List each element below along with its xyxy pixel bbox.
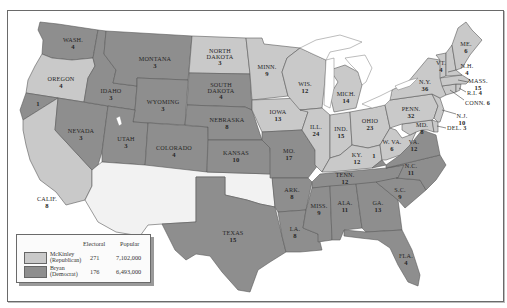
legend-swatch-democrat	[24, 266, 47, 278]
label-nevada: NEVADA3	[68, 128, 95, 141]
legend-electoral-mckinley: 271	[90, 254, 99, 261]
label-wyoming: WYOMING3	[147, 99, 180, 112]
label-ny: N.Y.36	[419, 79, 431, 92]
label-mich: MICH.14	[337, 91, 356, 104]
label-idaho: IDAHO3	[101, 88, 122, 101]
label-ohio: OHIO23	[362, 118, 378, 131]
label-ky-split: 1	[372, 153, 376, 160]
legend-popular-bryan: 6,493,000	[116, 268, 141, 275]
leader-del	[437, 126, 446, 128]
label-vt: VT.4	[436, 60, 446, 73]
label-oregon: OREGON4	[48, 76, 75, 89]
label-tenn: TENN.12	[335, 172, 354, 185]
legend-label-bryan: Bryan(Democrat)	[50, 265, 78, 278]
label-penn: PENN.32	[402, 106, 421, 119]
label-la: LA.8	[290, 226, 300, 239]
label-ark: ARK.8	[284, 187, 299, 200]
label-ill: ILL.24	[310, 124, 322, 137]
legend-electoral-bryan: 176	[90, 268, 99, 275]
legend-popular-mckinley: 7,102,000	[116, 254, 141, 261]
state-mich	[330, 65, 362, 112]
label-mo: MO.17	[283, 148, 295, 161]
legend-label-mckinley: McKinley(Republican)	[50, 251, 81, 264]
legend-header-electoral: Electoral	[83, 240, 105, 247]
leader-nj	[442, 110, 456, 114]
legend-swatch-republican	[24, 252, 47, 264]
label-ind: IND.15	[334, 126, 347, 139]
label-w-va: W. VA.6	[382, 139, 401, 152]
legend-header-popular: Popular	[120, 240, 139, 247]
label-montana: MONTANA3	[139, 56, 172, 69]
label-iowa: IOWA13	[270, 109, 287, 122]
label-conn: CONN. 6	[465, 100, 490, 107]
label-nh: N.H.4	[461, 63, 474, 76]
label-nebraska: NEBRASKA8	[210, 117, 245, 130]
legend: Electoral Popular McKinley(Republican) 2…	[16, 234, 151, 283]
state-ri	[456, 84, 461, 92]
label-mass: MASS.15	[468, 78, 487, 91]
label-sc: S.C.9	[394, 187, 405, 200]
label-texas: TEXAS15	[223, 230, 244, 243]
label-minn: MINN.9	[257, 64, 276, 77]
label-fla: FLA.4	[399, 253, 413, 266]
label-north-dakota: NORTHDAKOTA3	[207, 48, 234, 67]
label-me: ME.6	[460, 41, 471, 54]
label-utah: UTAH3	[117, 136, 135, 149]
label-miss: MISS.9	[311, 203, 328, 216]
label-ala: ALA.11	[337, 200, 352, 213]
label-nj: N.J.10	[457, 113, 468, 126]
label-wis: WIS.12	[298, 81, 312, 94]
label-south-dakota: SOUTHDAKOTA4	[208, 82, 235, 101]
label-calif: CALIF.8	[37, 196, 57, 209]
label-kansas: KANSAS10	[223, 150, 249, 163]
label-calif-split: 1	[36, 101, 40, 108]
label-va: VA.12	[409, 139, 419, 152]
label-wash: WASH.4	[63, 37, 83, 50]
label-ga: GA.13	[372, 200, 383, 213]
label-nc: N.C.11	[405, 163, 418, 176]
label-colorado: COLORADO4	[156, 145, 192, 158]
label-ky: KY.12	[352, 152, 362, 165]
label-md: MD.8	[416, 122, 428, 135]
